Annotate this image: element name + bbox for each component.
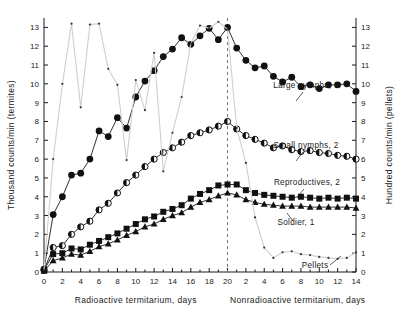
data-point [70,23,72,25]
data-point [344,153,350,159]
x-tick-label-right: 8 [299,277,304,286]
data-point [224,118,230,124]
data-point [68,231,74,237]
data-point [123,232,130,238]
data-point [316,203,323,209]
y-tick-label-left: 7 [35,136,40,145]
data-point [190,42,192,44]
data-point [132,228,139,234]
x-tick-label-left: 4 [78,277,83,286]
y-tick-label-right: 13 [361,23,370,32]
data-point [206,187,212,193]
data-point [197,130,203,136]
y-tick-label-left: 2 [35,230,40,239]
data-point [61,83,63,85]
y-tick-label-left: 0 [35,268,40,277]
data-point [59,193,66,200]
data-point [335,196,341,202]
data-point [261,63,268,70]
data-point [327,257,329,259]
data-point [151,220,158,226]
y-tick-label-right: 12 [361,42,370,51]
data-point [178,209,185,215]
y-tick-label-right: 7 [361,136,366,145]
data-point [217,21,219,23]
data-point [199,24,201,26]
data-point [309,254,311,256]
x-tick-label-left: 6 [97,277,102,286]
data-point [142,216,148,222]
data-point [353,156,359,162]
y-tick-label-left: 8 [35,117,40,126]
data-point [252,64,259,71]
data-point [325,150,331,156]
data-point [153,52,155,54]
data-point [343,80,350,87]
y-axis-title-right: Hundred counts/min (pellets) [384,86,394,204]
data-point [298,203,305,209]
y-tick-label-left: 10 [30,80,39,89]
data-point [316,149,322,155]
series-leader-line [330,256,341,265]
data-point [353,88,360,95]
data-point [162,170,164,172]
data-point [86,248,93,254]
data-point [169,46,176,53]
data-point [169,145,175,151]
data-point [224,189,231,195]
x-tick-label-right: 12 [333,277,342,286]
data-point [86,156,93,163]
data-point [343,203,350,209]
data-point [179,139,185,145]
data-point [123,125,130,132]
data-point [288,203,295,209]
data-point [142,78,149,85]
data-point [114,114,121,121]
y-tick-label-left: 9 [35,99,40,108]
x-tick-label-left: 16 [186,277,195,286]
x-axis-title-right: Nonradioactive termitarium, days [230,295,365,305]
data-point [52,158,54,160]
data-point [344,195,350,201]
x-tick-label-left: 2 [60,277,65,286]
y-tick-label-left: 4 [35,193,40,202]
x-tick-label-left: 14 [168,277,177,286]
data-point [215,123,221,129]
data-point [187,203,194,209]
data-point [197,191,203,197]
data-point [87,218,93,224]
data-point [171,132,173,134]
data-point [160,53,167,60]
data-point [234,182,240,188]
data-point [300,253,302,255]
data-point [89,23,91,25]
data-point [96,207,102,213]
data-point [96,127,103,134]
data-point [123,180,129,186]
data-point [334,203,341,209]
data-point [98,23,100,25]
chart-figure: 0123456789101112130123456789101112130246… [0,0,404,316]
y-tick-label-left: 3 [35,212,40,221]
x-tick-label-left: 12 [150,277,159,286]
data-point [242,196,249,202]
data-point [291,250,293,252]
data-point [252,136,258,142]
data-point [243,187,249,193]
data-point [50,251,56,257]
data-point [281,251,283,253]
data-point [270,73,277,80]
data-point [346,257,348,259]
chart-svg: 0123456789101112130123456789101112130246… [0,0,404,316]
data-point [335,152,341,158]
data-point [124,226,130,232]
y-tick-label-right: 0 [361,268,366,277]
data-point [105,133,112,140]
data-point [151,156,157,162]
data-point [114,236,121,242]
series-label-2: Reproductives, 2 [274,178,340,187]
data-point [353,196,359,202]
data-point [114,230,120,236]
data-point [160,209,166,215]
y-tick-label-right: 3 [361,212,366,221]
